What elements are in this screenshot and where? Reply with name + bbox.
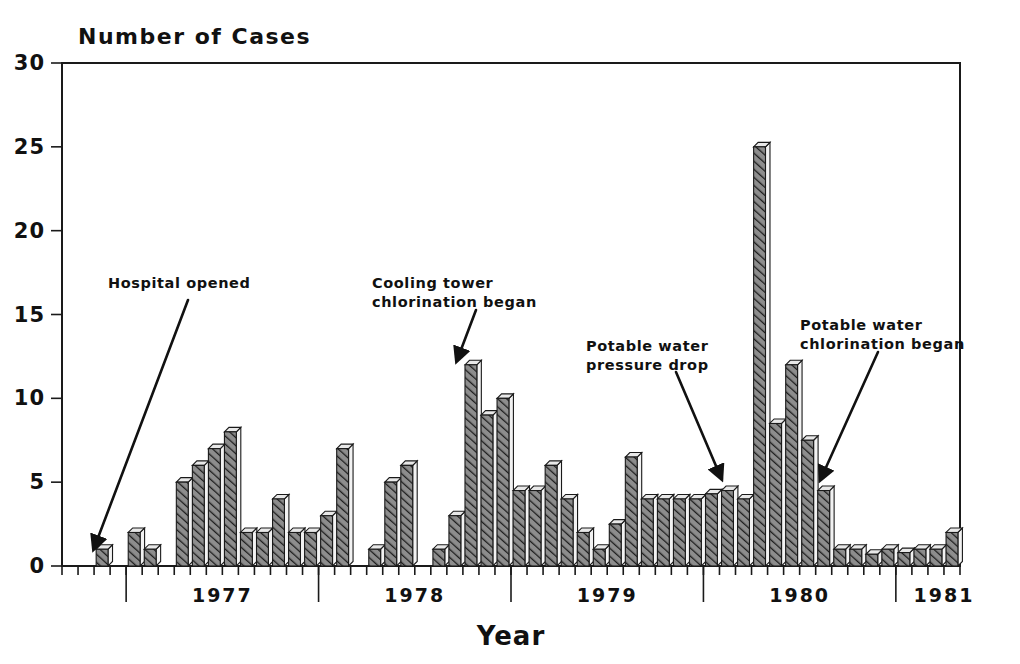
y-tick-label: 25 <box>14 135 45 159</box>
y-tick-label: 10 <box>14 386 45 410</box>
bar <box>754 142 770 566</box>
bar <box>192 461 208 566</box>
bar <box>850 545 866 566</box>
annotation-leader-line <box>676 372 719 473</box>
bar <box>240 528 256 566</box>
bar <box>786 360 802 566</box>
bar <box>738 494 754 566</box>
bar <box>898 548 914 566</box>
bar <box>208 444 224 566</box>
bar-series <box>96 142 962 566</box>
bar <box>706 489 722 566</box>
bar <box>609 520 625 566</box>
annotation-label: chlorination began <box>800 336 965 352</box>
annotation-leader-line <box>823 352 878 474</box>
y-tick-label: 20 <box>14 219 45 243</box>
x-tick-label: 1978 <box>384 584 445 606</box>
bar <box>513 486 529 566</box>
bar <box>401 461 417 566</box>
bar <box>289 528 305 566</box>
bar <box>866 550 882 566</box>
bar <box>593 545 609 566</box>
annotation-label: chlorination began <box>372 294 537 310</box>
annotation-label: Cooling tower <box>372 275 494 291</box>
bar <box>481 411 497 566</box>
bar <box>641 494 657 566</box>
bar <box>577 528 593 566</box>
annotation-leader-line <box>96 300 188 543</box>
bar <box>305 528 321 566</box>
bar <box>385 478 401 566</box>
annotation-potable-water-chlorination: Potable waterchlorination began <box>800 317 965 474</box>
annotation-label: Potable water <box>800 317 923 333</box>
bar <box>497 394 513 566</box>
bar <box>529 486 545 566</box>
annotation-cooling-tower-chlorination: Cooling towerchlorination began <box>372 275 537 355</box>
bar <box>545 461 561 566</box>
x-tick-label: 1981 <box>914 584 975 606</box>
x-axis-ticks: 19771978197919801981 <box>62 566 974 606</box>
x-axis-title: Year <box>476 621 545 651</box>
chart-figure: Number of Cases Year 051015202530 197719… <box>0 0 1020 664</box>
bar <box>673 494 689 566</box>
bar <box>770 419 786 566</box>
x-tick-label: 1980 <box>769 584 830 606</box>
bar <box>818 486 834 566</box>
bar <box>561 494 577 566</box>
bar <box>882 545 898 566</box>
bar <box>337 444 353 566</box>
bar <box>689 494 705 566</box>
bar <box>369 545 385 566</box>
bar <box>224 427 240 566</box>
y-axis-ticks: 051015202530 <box>14 51 62 578</box>
bar <box>657 494 673 566</box>
bar <box>625 453 641 566</box>
annotation-potable-water-pressure-drop: Potable waterpressure drop <box>586 338 719 473</box>
annotation-label: Hospital opened <box>108 275 251 291</box>
bar <box>176 478 192 566</box>
bar <box>802 436 818 566</box>
bar <box>433 545 449 566</box>
y-tick-label: 30 <box>14 51 45 75</box>
bar <box>946 528 962 566</box>
x-tick-label: 1977 <box>192 584 253 606</box>
annotation-label: Potable water <box>586 338 709 354</box>
y-tick-label: 15 <box>14 303 45 327</box>
bar <box>321 511 337 566</box>
bar <box>722 486 738 566</box>
y-tick-label: 5 <box>29 470 45 494</box>
bar-chart-svg: Number of Cases Year 051015202530 197719… <box>0 0 1020 664</box>
bar <box>96 545 112 566</box>
annotation-label: pressure drop <box>586 357 709 373</box>
bar <box>144 545 160 566</box>
bar <box>930 545 946 566</box>
x-tick-label: 1979 <box>577 584 638 606</box>
bar <box>834 545 850 566</box>
bar <box>128 528 144 566</box>
bar <box>465 360 481 566</box>
y-tick-label: 0 <box>29 554 45 578</box>
y-axis-title: Number of Cases <box>78 24 311 49</box>
bar <box>257 528 273 566</box>
bar <box>449 511 465 566</box>
annotation-leader-line <box>459 310 476 355</box>
bar <box>273 494 289 566</box>
bar <box>914 545 930 566</box>
